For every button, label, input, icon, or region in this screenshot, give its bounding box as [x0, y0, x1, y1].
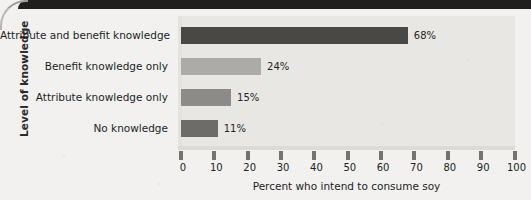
x-tick-label: 0 — [168, 162, 198, 173]
x-tick-mark — [179, 151, 183, 160]
x-tick-label: 30 — [268, 162, 298, 173]
x-tick-label: 100 — [502, 162, 531, 173]
x-tick-mark — [513, 151, 517, 160]
x-axis-line — [178, 146, 515, 150]
x-tick-label: 10 — [201, 162, 231, 173]
x-tick-mark — [479, 151, 483, 160]
bar-value-label: 24% — [267, 58, 289, 75]
x-tick-mark — [412, 151, 416, 160]
x-tick-label: 80 — [435, 162, 465, 173]
bar-value-label: 68% — [414, 27, 436, 44]
x-tick-label: 50 — [335, 162, 365, 173]
bar — [181, 27, 408, 44]
bar-value-label: 15% — [237, 89, 259, 106]
x-tick-mark — [379, 151, 383, 160]
x-tick-mark — [246, 151, 250, 160]
x-tick-label: 40 — [301, 162, 331, 173]
bar — [181, 120, 218, 137]
bar-row: Attribute and benefit knowledge68% — [0, 27, 531, 44]
bar — [181, 58, 261, 75]
bar-value-label: 11% — [224, 120, 246, 137]
x-tick-label: 90 — [468, 162, 498, 173]
x-tick-label: 20 — [235, 162, 265, 173]
x-tick-label: 70 — [401, 162, 431, 173]
x-tick-mark — [279, 151, 283, 160]
bar-category-label: Benefit knowledge only — [0, 58, 168, 75]
bar-row: No knowledge11% — [0, 120, 531, 137]
bar-chart: Level of knowledge Attribute and benefit… — [0, 0, 531, 200]
x-tick-mark — [312, 151, 316, 160]
x-axis-title: Percent who intend to consume soy — [178, 180, 515, 192]
bar — [181, 89, 231, 106]
bar-category-label: Attribute and benefit knowledge — [0, 27, 168, 44]
x-tick-label: 60 — [368, 162, 398, 173]
bar-row: Attribute knowledge only15% — [0, 89, 531, 106]
bar-row: Benefit knowledge only24% — [0, 58, 531, 75]
bar-category-label: No knowledge — [0, 120, 168, 137]
bar-category-label: Attribute knowledge only — [0, 89, 168, 106]
x-tick-mark — [346, 151, 350, 160]
x-tick-mark — [212, 151, 216, 160]
x-tick-mark — [446, 151, 450, 160]
